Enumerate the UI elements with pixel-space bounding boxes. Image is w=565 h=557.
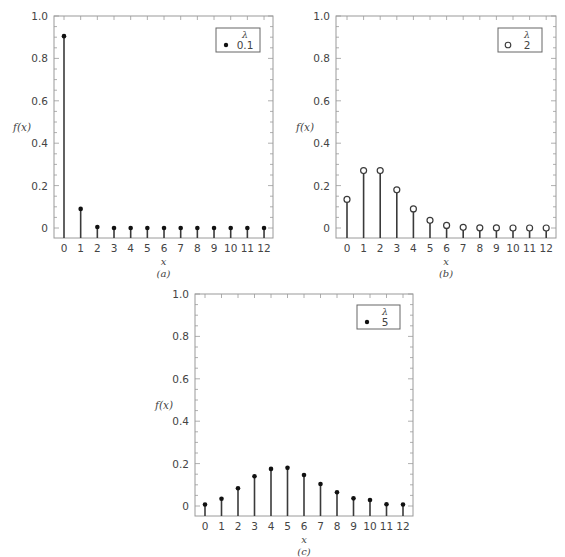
data-point-open — [361, 168, 367, 174]
data-point — [178, 226, 183, 231]
x-tick-label: 9 — [350, 520, 357, 532]
x-tick-label: 1 — [360, 242, 367, 254]
y-axis-label: f(x) — [295, 121, 314, 133]
y-tick-label: 0.8 — [172, 330, 189, 342]
data-point-open — [444, 222, 450, 228]
x-tick-label: 11 — [241, 242, 254, 254]
data-point — [62, 34, 67, 39]
x-tick-label: 6 — [443, 242, 450, 254]
x-tick-label: 8 — [194, 242, 201, 254]
x-tick-label: 10 — [363, 520, 376, 532]
data-point — [335, 490, 340, 495]
data-point — [162, 226, 167, 231]
legend: λ2 — [498, 28, 542, 52]
x-tick-label: 0 — [202, 520, 209, 532]
x-tick-label: 11 — [523, 242, 536, 254]
x-tick-label: 9 — [211, 242, 218, 254]
data-point — [78, 207, 83, 212]
data-point — [112, 226, 117, 231]
x-axis-label: x — [301, 534, 307, 545]
y-tick-label: 1.0 — [31, 10, 48, 22]
y-tick-label: 0.6 — [172, 373, 189, 385]
data-point — [212, 226, 217, 231]
x-tick-label: 3 — [251, 520, 258, 532]
chart-c: 00.20.40.60.81.00123456789101112xf(x)(c)… — [154, 288, 413, 557]
data-point — [245, 226, 250, 231]
y-tick-label: 0.8 — [313, 52, 330, 64]
x-tick-label: 6 — [301, 520, 308, 532]
x-tick-label: 0 — [344, 242, 351, 254]
figure-caption: (c) — [297, 546, 311, 557]
y-tick-label: 0 — [182, 500, 189, 512]
x-axis-label: x — [161, 256, 167, 267]
data-point — [128, 226, 133, 231]
chart-b: 00.20.40.60.81.00123456789101112xf(x)(b)… — [295, 10, 556, 279]
data-point — [262, 226, 267, 231]
x-tick-label: 12 — [396, 520, 409, 532]
data-point-open — [510, 225, 516, 231]
x-tick-label: 4 — [268, 520, 275, 532]
data-point — [145, 226, 150, 231]
figure-caption: (a) — [157, 268, 171, 279]
data-point-open — [527, 225, 533, 231]
y-tick-label: 0 — [323, 222, 330, 234]
data-point — [318, 482, 323, 487]
x-tick-label: 4 — [410, 242, 417, 254]
x-tick-label: 8 — [334, 520, 341, 532]
y-tick-label: 1.0 — [172, 288, 189, 300]
x-tick-label: 3 — [393, 242, 400, 254]
data-point — [401, 502, 406, 507]
data-point — [236, 486, 241, 491]
x-tick-label: 2 — [377, 242, 384, 254]
legend-marker-circle-icon — [224, 43, 228, 47]
y-tick-label: 0.4 — [172, 415, 189, 427]
y-tick-label: 1.0 — [313, 10, 330, 22]
x-tick-label: 0 — [61, 242, 68, 254]
data-point — [95, 225, 100, 230]
y-axis-label: f(x) — [12, 121, 31, 133]
data-point — [252, 474, 257, 479]
y-tick-label: 0.4 — [313, 137, 330, 149]
chart-a: 00.20.40.60.81.00123456789101112xf(x)(a)… — [12, 10, 273, 279]
legend-marker-open-circle-icon — [505, 42, 511, 48]
x-tick-label: 5 — [284, 520, 291, 532]
x-tick-label: 10 — [224, 242, 237, 254]
data-point — [368, 498, 373, 503]
data-point-open — [460, 224, 466, 230]
legend-label: 0.1 — [237, 39, 254, 51]
x-tick-label: 4 — [127, 242, 134, 254]
x-tick-label: 12 — [540, 242, 553, 254]
x-tick-label: 2 — [94, 242, 101, 254]
y-tick-label: 0.4 — [31, 137, 48, 149]
x-tick-label: 11 — [380, 520, 393, 532]
data-point — [269, 467, 274, 472]
x-tick-label: 5 — [427, 242, 434, 254]
x-tick-label: 12 — [257, 242, 270, 254]
x-axis-label: x — [443, 256, 449, 267]
y-tick-label: 0 — [41, 222, 48, 234]
legend-box — [357, 305, 400, 329]
y-tick-label: 0.6 — [313, 95, 330, 107]
legend: λ0.1 — [216, 28, 260, 52]
figure-caption: (b) — [439, 268, 453, 279]
data-point — [228, 226, 233, 231]
data-point — [285, 466, 290, 471]
y-tick-label: 0.2 — [172, 458, 189, 470]
chart-a: 00.20.40.60.81.00123456789101112xf(x)(a)… — [0, 0, 565, 557]
legend-marker-circle-icon — [365, 320, 369, 324]
y-axis-label: f(x) — [154, 399, 173, 411]
data-point — [384, 502, 389, 507]
data-point-open — [410, 206, 416, 212]
x-tick-label: 2 — [235, 520, 242, 532]
x-tick-label: 7 — [177, 242, 184, 254]
y-tick-label: 0.8 — [31, 52, 48, 64]
y-tick-label: 0.2 — [31, 180, 48, 192]
x-tick-label: 10 — [506, 242, 519, 254]
data-point-open — [493, 225, 499, 231]
legend-box — [498, 28, 542, 52]
data-point-open — [377, 168, 383, 174]
x-tick-label: 6 — [161, 242, 168, 254]
data-point-open — [477, 225, 483, 231]
x-tick-label: 7 — [460, 242, 467, 254]
legend-label: 5 — [382, 316, 389, 328]
